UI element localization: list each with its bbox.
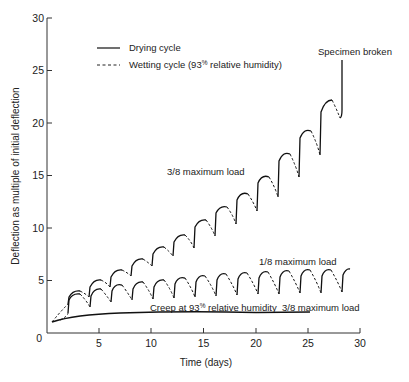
legend-wetting-label: Wetting cycle (93% relative humidity) <box>129 59 282 70</box>
specimen-broken-label: Specimen broken <box>318 46 392 57</box>
load-38-label: 3/8 maximum load <box>167 166 245 177</box>
y-tick-0: 0 <box>36 332 42 344</box>
x-tick-5: 5 <box>96 337 102 349</box>
x-axis-title: Time (days) <box>180 357 232 368</box>
y-axis-title: Deflection as multiple of initial deflec… <box>10 87 21 264</box>
y-tick-5: 5 <box>38 274 44 286</box>
y-tick-10: 10 <box>32 222 44 234</box>
creep-curve <box>52 312 310 322</box>
x-tick-labels: 5 10 15 20 25 30 <box>96 337 366 349</box>
legend: Drying cycle Wetting cycle (93% relative… <box>97 42 282 70</box>
y-tick-30: 30 <box>32 12 44 24</box>
creep-load-label: 3/8 maximum load <box>282 302 360 313</box>
x-tick-15: 15 <box>198 337 210 349</box>
y-tick-labels: 0 5 10 15 20 25 30 <box>32 12 44 344</box>
x-tick-30: 30 <box>354 337 366 349</box>
x-tick-10: 10 <box>145 337 157 349</box>
x-tick-20: 20 <box>250 337 262 349</box>
failure-spike <box>340 60 342 118</box>
y-tick-25: 25 <box>32 64 44 76</box>
legend-drying-label: Drying cycle <box>129 42 181 53</box>
y-tick-15: 15 <box>32 169 44 181</box>
y-tick-20: 20 <box>32 117 44 129</box>
series-3-8-load <box>52 60 342 322</box>
chart: 0 5 10 15 20 25 30 5 10 15 20 25 30 Time… <box>0 0 409 382</box>
x-tick-25: 25 <box>302 337 314 349</box>
load-18-label: 1/8 maximum load <box>259 256 337 267</box>
